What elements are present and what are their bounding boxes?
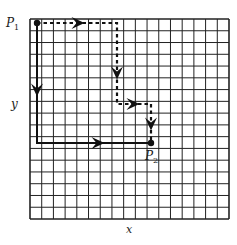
dashed-path bbox=[37, 17, 157, 143]
grid bbox=[30, 19, 229, 219]
point-p2-dot bbox=[148, 140, 154, 146]
paths bbox=[31, 17, 157, 149]
x-axis-label: x bbox=[126, 223, 133, 236]
y-axis-label: y bbox=[10, 97, 18, 111]
points bbox=[34, 20, 154, 146]
p2-label: P2 bbox=[144, 149, 158, 165]
point-p1-dot bbox=[34, 20, 40, 26]
p1-label: P1 bbox=[5, 16, 19, 32]
solid-path bbox=[31, 23, 151, 149]
path-diagram: P1 P2 y x bbox=[0, 0, 237, 245]
